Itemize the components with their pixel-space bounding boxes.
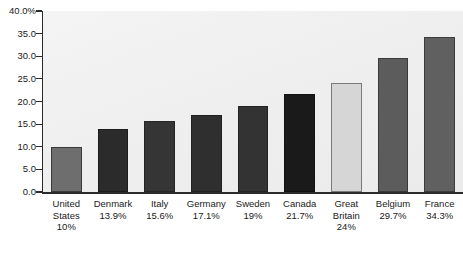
y-axis-tick-label: 25.0 [0, 74, 36, 84]
x-axis-category-label: Germany17.1% [183, 198, 230, 221]
x-axis-category-label: Sweden19% [230, 198, 277, 221]
bar [144, 121, 175, 192]
category-name: Belgium [370, 198, 417, 210]
x-axis-category-label: Denmark13.9% [90, 198, 137, 221]
y-axis-tick-mark [36, 169, 42, 170]
y-axis-tick-label: 15.0 [0, 119, 36, 129]
y-axis-tick-mark [36, 124, 42, 125]
x-axis-category-label: Italy15.6% [136, 198, 183, 221]
y-axis-tick-mark [36, 146, 42, 147]
category-name: Denmark [90, 198, 137, 210]
bars-layer [43, 11, 463, 192]
category-name: Canada [276, 198, 323, 210]
y-axis-tick-mark [36, 101, 42, 102]
y-axis-tick-label: 30.0 [0, 51, 36, 61]
category-value-label: 21.7% [276, 210, 323, 222]
category-value-label: 17.1% [183, 210, 230, 222]
y-axis-labels: 0.05.010.015.020.025.030.035.040.0% [0, 0, 36, 200]
category-name: France [416, 198, 463, 210]
bar [424, 37, 455, 192]
y-axis-tick-mark [36, 56, 42, 57]
bar [98, 129, 129, 192]
category-value-label: 24% [323, 221, 370, 233]
y-axis-tick-label: 0.0 [0, 187, 36, 197]
category-name: Sweden [230, 198, 277, 210]
y-axis-tick-mark [36, 10, 42, 11]
category-name: Italy [136, 198, 183, 210]
x-axis-category-label: Canada21.7% [276, 198, 323, 221]
y-axis-tick-label: 5.0 [0, 164, 36, 174]
bar [51, 147, 82, 192]
x-axis-line [42, 192, 463, 194]
category-value-label: 34.3% [416, 210, 463, 222]
x-axis-category-label: Belgium29.7% [370, 198, 417, 221]
bar [238, 106, 269, 192]
category-name: United States [43, 198, 90, 221]
y-axis-tick-label: 20.0 [0, 97, 36, 107]
category-value-label: 19% [230, 210, 277, 222]
y-axis-tick-label: 10.0 [0, 142, 36, 152]
category-name: Germany [183, 198, 230, 210]
y-axis-tick-label: 40.0% [0, 6, 36, 16]
category-name: Great Britain [323, 198, 370, 221]
category-value-label: 10% [43, 221, 90, 233]
bar [284, 94, 315, 192]
x-axis-category-label: United States10% [43, 198, 90, 233]
category-value-label: 13.9% [90, 210, 137, 222]
y-axis-tick-mark [36, 33, 42, 34]
x-axis-category-label: France34.3% [416, 198, 463, 221]
x-axis-category-label: Great Britain24% [323, 198, 370, 233]
x-axis-category-labels: United States10%Denmark13.9%Italy15.6%Ge… [43, 198, 463, 253]
bar-chart: 0.05.010.015.020.025.030.035.040.0% Unit… [0, 0, 463, 255]
category-value-label: 15.6% [136, 210, 183, 222]
category-value-label: 29.7% [370, 210, 417, 222]
bar [191, 115, 222, 192]
y-axis-tick-label: 35.0 [0, 29, 36, 39]
bar [331, 83, 362, 192]
y-axis-tick-mark [36, 78, 42, 79]
bar [378, 58, 409, 192]
y-axis-tick-mark [36, 191, 42, 192]
